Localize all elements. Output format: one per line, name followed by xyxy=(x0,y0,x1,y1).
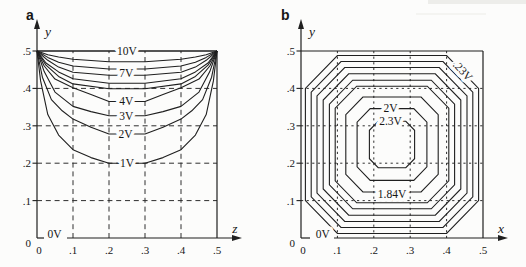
y-tick-label: .5 xyxy=(23,45,32,57)
y-tick-label: .1 xyxy=(287,195,295,207)
y-axis-arrowhead xyxy=(34,19,40,29)
contour-label: 1V xyxy=(120,157,135,169)
contour-label: .23V xyxy=(451,58,476,83)
x-tick-label: .2 xyxy=(370,244,378,256)
y-tick-label: .3 xyxy=(287,120,296,132)
y-tick-label: .3 xyxy=(23,120,32,132)
contour-ring xyxy=(369,121,414,167)
contour-label: 3V xyxy=(119,110,134,122)
x-axis-label: x xyxy=(497,221,504,236)
x-tick-label: .2 xyxy=(105,244,113,256)
y-axis-label: y xyxy=(43,24,51,39)
contour-label: 7V xyxy=(119,67,134,79)
figure-contour-plots: a 10V7V4V3V2V1V0V0.1.2.3.4.50.1.2.3.4.5y… xyxy=(0,0,526,267)
contour-ring xyxy=(305,56,478,234)
y-tick-label: .4 xyxy=(287,82,296,94)
contour-label: 2V xyxy=(119,128,134,140)
y-tick-label: .2 xyxy=(287,157,295,169)
x-tick-label: 0 xyxy=(36,244,42,256)
x-tick-label: .5 xyxy=(479,244,488,256)
contour-label: 0V xyxy=(316,228,331,240)
x-tick-label: 0 xyxy=(300,244,306,256)
x-tick-label: .3 xyxy=(406,244,415,256)
panel-b-contour-plot: .23V2V2.3V1.84V0V0.1.2.3.4.50.1.2.3.4.5y… xyxy=(263,0,526,267)
contour-label: 2V xyxy=(384,102,399,114)
contour-label: 1.84V xyxy=(378,188,407,200)
y-axis-label: y xyxy=(307,24,315,39)
contour-label: 0V xyxy=(48,228,63,240)
x-tick-label: .3 xyxy=(141,244,150,256)
x-tick-label: .4 xyxy=(442,244,451,256)
contour-label: 4V xyxy=(119,95,134,107)
x-tick-label: .4 xyxy=(177,244,186,256)
panel-a-contour-plot: 10V7V4V3V2V1V0V0.1.2.3.4.50.1.2.3.4.5yz xyxy=(0,0,263,267)
y-tick-label: .4 xyxy=(23,82,32,94)
y-tick-label: 0 xyxy=(26,237,32,249)
contour-label: 2.3V xyxy=(379,115,402,127)
x-tick-label: .1 xyxy=(69,244,77,256)
x-tick-label: .1 xyxy=(333,244,341,256)
contour-label: 10V xyxy=(117,45,138,57)
y-tick-label: .1 xyxy=(23,195,31,207)
y-axis-arrowhead xyxy=(298,19,304,29)
x-tick-label: .5 xyxy=(213,244,222,256)
panel-a: a 10V7V4V3V2V1V0V0.1.2.3.4.50.1.2.3.4.5y… xyxy=(0,0,263,267)
y-tick-label: .5 xyxy=(287,45,296,57)
y-tick-label: 0 xyxy=(290,237,296,249)
panel-b: b .23V2V2.3V1.84V0V0.1.2.3.4.50.1.2.3.4.… xyxy=(263,0,526,267)
y-tick-label: .2 xyxy=(23,157,31,169)
x-axis-label: z xyxy=(231,221,238,236)
